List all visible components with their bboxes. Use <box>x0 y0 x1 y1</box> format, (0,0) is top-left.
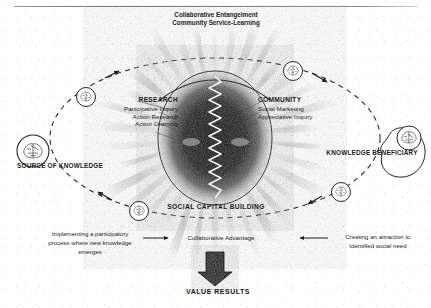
right-flow-caption: Creating an attraction to Identified soc… <box>330 233 426 251</box>
community-item-2: Appreciative Inquiry <box>258 113 354 121</box>
community-label-group: COMMUNITY Social Marketing Appreciative … <box>258 96 354 120</box>
research-item-2: Action Research <box>86 113 178 121</box>
research-item-1: Participative Inquiry <box>86 105 178 113</box>
diagram-figure: Collaborative Entangelment Community Ser… <box>0 0 431 308</box>
knowledge-beneficiary-label: KNOWLEDGE BENEFICIARY <box>316 149 428 157</box>
right-flow-line-2: Identified social need <box>330 242 426 251</box>
community-item-1: Social Marketing <box>258 105 354 113</box>
source-of-knowledge-label: SOURCE OF KNOWLEDGE <box>6 162 114 170</box>
top-caption-line-2: Community Service-Learning <box>126 19 306 27</box>
community-heading: COMMUNITY <box>258 96 354 104</box>
research-item-3: Action Learning <box>86 120 178 128</box>
thick-arrow-down-icon <box>198 252 232 286</box>
core-patch-right <box>231 138 249 146</box>
left-flow-caption: Implementing a participatory process whe… <box>24 230 156 256</box>
top-caption-line-1: Collaborative Entangelment <box>126 11 306 19</box>
research-heading: RESEARCH <box>86 96 178 104</box>
orbit-node-lower-right <box>332 183 351 202</box>
left-flow-line-2: process where new knowledge <box>24 239 156 248</box>
orbit-node-lower-left <box>130 202 149 221</box>
diagram-top-caption: Collaborative Entangelment Community Ser… <box>126 11 306 26</box>
orbit-node-upper-right <box>284 62 303 81</box>
social-capital-building-label: SOCIAL CAPITAL BUILDING <box>155 203 277 211</box>
core-patch-left <box>182 138 200 146</box>
right-flow-line-1: Creating an attraction to <box>330 233 426 242</box>
left-flow-line-3: emerges <box>24 248 156 257</box>
research-label-group: RESEARCH Participative Inquiry Action Re… <box>86 96 178 128</box>
collaborative-advantage-label: Collaborative Advantage <box>173 234 269 242</box>
value-results-label: VALUE RESULTS <box>163 288 273 297</box>
left-flow-line-1: Implementing a participatory <box>24 230 156 239</box>
